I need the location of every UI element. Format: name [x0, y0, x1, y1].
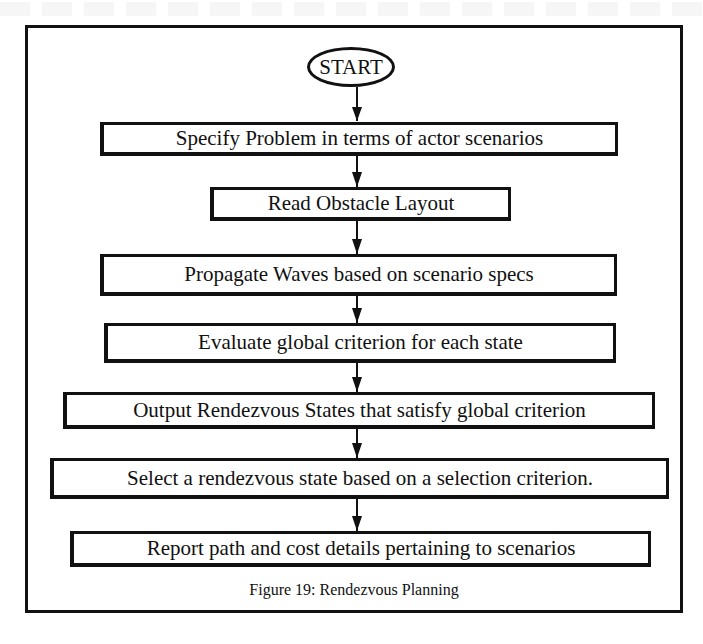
step-select-rendezvous-state: Select a rendezvous state based on a sel…	[50, 458, 669, 499]
step-label: Select a rendezvous state based on a sel…	[127, 466, 593, 491]
step-specify-problem: Specify Problem in terms of actor scenar…	[100, 122, 618, 156]
figure-caption: Figure 19: Rendezvous Planning	[25, 581, 683, 599]
step-propagate-waves: Propagate Waves based on scenario specs	[100, 254, 617, 296]
step-label: Read Obstacle Layout	[268, 191, 455, 216]
step-label: Report path and cost details pertaining …	[147, 536, 576, 561]
start-label: START	[319, 55, 383, 80]
step-report-path-and-cost: Report path and cost details pertaining …	[70, 531, 651, 567]
step-label: Specify Problem in terms of actor scenar…	[176, 126, 543, 151]
step-label: Propagate Waves based on scenario specs	[184, 262, 534, 287]
start-terminal: START	[307, 47, 395, 87]
step-output-rendezvous-states: Output Rendezvous States that satisfy gl…	[63, 392, 655, 429]
step-label: Output Rendezvous States that satisfy gl…	[133, 398, 586, 423]
scan-bleed-through	[0, 2, 703, 16]
step-evaluate-global-criterion: Evaluate global criterion for each state	[104, 323, 616, 363]
step-label: Evaluate global criterion for each state	[198, 330, 523, 355]
figure-frame	[25, 25, 683, 613]
step-read-obstacle-layout: Read Obstacle Layout	[210, 187, 511, 221]
